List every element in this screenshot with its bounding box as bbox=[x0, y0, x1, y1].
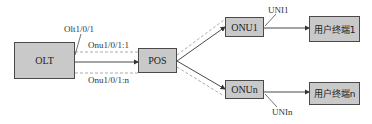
uni1-label: UNI1 bbox=[268, 5, 289, 15]
onun-node: ONUn bbox=[225, 80, 264, 99]
pos-node: POS bbox=[138, 48, 177, 73]
onun-label: ONUn bbox=[231, 84, 258, 95]
olt-label: OLT bbox=[35, 55, 54, 66]
onu1-node: ONU1 bbox=[225, 17, 264, 37]
terminaln-label: 用户终端n bbox=[314, 87, 356, 100]
olt-port-label: Olt1/0/1 bbox=[64, 24, 94, 34]
terminal1-node: 用户终端1 bbox=[309, 16, 360, 42]
terminaln-node: 用户终端n bbox=[309, 82, 360, 105]
pon-topology-diagram: OLT POS ONU1 ONUn 用户终端1 用户终端n Olt1/0/1 O… bbox=[0, 0, 372, 124]
terminal1-label: 用户终端1 bbox=[314, 23, 356, 36]
unin-label: UNIn bbox=[272, 107, 293, 117]
onu1-label: ONU1 bbox=[231, 22, 258, 33]
pos-label: POS bbox=[148, 55, 166, 66]
onu-link-n-label: Onu1/0/1:n bbox=[88, 75, 129, 85]
olt-node: OLT bbox=[14, 42, 75, 79]
onu-link-1-label: Onu1/0/1:1 bbox=[88, 40, 129, 50]
